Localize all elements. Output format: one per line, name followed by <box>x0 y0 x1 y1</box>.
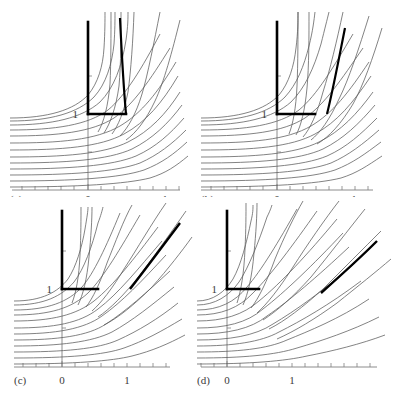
panel-d: 1 0 1 (d) <box>197 197 393 394</box>
panel-c-x-tick-0: 0 <box>59 374 65 386</box>
panel-b-plot: 1 0 1 (b) <box>197 0 393 197</box>
panel-c-tag: (c) <box>14 374 27 387</box>
panel-a-y-tick-label: 1 <box>73 108 79 120</box>
streamlines-b <box>201 12 382 187</box>
panel-d-plot: 1 0 1 (d) <box>197 197 393 394</box>
separating-streamline-c <box>130 223 180 289</box>
axes-c <box>14 227 170 367</box>
separating-streamline-b <box>327 28 345 114</box>
panel-b-y-tick-label: 1 <box>262 108 268 120</box>
separating-streamline-d <box>321 241 377 293</box>
panel-c: 1 0 1 (c) <box>0 197 196 394</box>
panel-d-y-tick-label: 1 <box>212 283 218 295</box>
panel-d-x-tick-1: 1 <box>289 374 295 386</box>
panel-b: 1 0 1 (b) <box>197 0 393 197</box>
separating-streamline-a <box>120 18 126 114</box>
panel-d-tag: (d) <box>197 374 210 387</box>
panel-a-plot: 1 0 1 (a) <box>0 0 196 197</box>
streamlines-a <box>10 12 188 187</box>
panel-c-x-tick-1: 1 <box>124 374 130 386</box>
panel-a: 1 0 1 (a) <box>0 0 196 197</box>
streamlines-c <box>14 203 192 364</box>
figure-streamline-grid: 1 0 1 (a) <box>0 0 393 394</box>
panel-d-x-tick-0: 0 <box>224 374 230 386</box>
panel-c-plot: 1 0 1 (c) <box>0 197 196 394</box>
panel-c-y-tick-label: 1 <box>47 283 53 295</box>
